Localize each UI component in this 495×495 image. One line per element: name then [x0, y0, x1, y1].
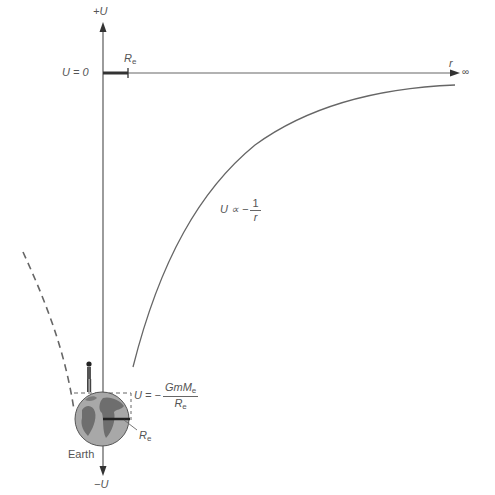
minus-u-label: −U — [94, 479, 108, 490]
earth-label: Earth — [68, 449, 94, 460]
u-axis-down-arrow-icon — [100, 466, 107, 476]
r-axis-label: r — [449, 58, 453, 69]
u-zero-label: U = 0 — [62, 67, 89, 78]
interior-dashed-curve — [23, 252, 74, 410]
person-icon — [86, 361, 91, 392]
re-earth-label: Re — [139, 430, 151, 443]
surface-potential-label: U = −GmMeRe — [134, 382, 198, 411]
re-top-label: Re — [124, 53, 136, 66]
r-axis-arrow-icon — [450, 70, 460, 77]
u-axis-up-arrow-icon — [100, 22, 107, 32]
plus-u-label: +U — [93, 6, 107, 17]
potential-curve — [133, 85, 455, 367]
infinity-label: ∞ — [462, 67, 469, 77]
earth-globe-icon — [75, 392, 130, 446]
curve-label: U ∝ −1r — [220, 198, 261, 223]
